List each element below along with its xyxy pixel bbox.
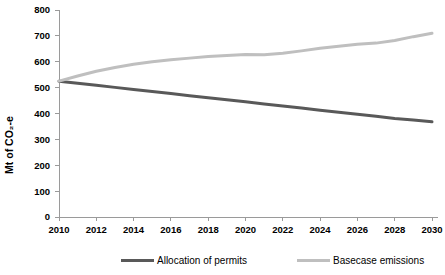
x-tick-label: 2030 bbox=[421, 224, 442, 235]
y-tick-label: 600 bbox=[34, 56, 50, 67]
x-axis-tick-marks bbox=[59, 217, 432, 221]
x-tick-label: 2026 bbox=[347, 224, 368, 235]
x-tick-label: 2016 bbox=[160, 224, 181, 235]
series-line bbox=[59, 81, 432, 122]
y-tick-label: 800 bbox=[34, 4, 50, 15]
series-line bbox=[59, 33, 432, 81]
x-tick-label: 2014 bbox=[123, 224, 145, 235]
y-tick-label: 100 bbox=[34, 186, 50, 197]
x-tick-label: 2024 bbox=[310, 224, 332, 235]
x-tick-label: 2020 bbox=[235, 224, 256, 235]
line-chart: Mt of CO₂-e 0100200300400500600700800 20… bbox=[0, 0, 445, 275]
legend-label: Allocation of permits bbox=[157, 255, 247, 266]
y-tick-label: 400 bbox=[34, 108, 50, 119]
x-tick-label: 2018 bbox=[198, 224, 219, 235]
x-tick-label: 2028 bbox=[384, 224, 405, 235]
chart-container: Mt of CO₂-e 0100200300400500600700800 20… bbox=[0, 0, 445, 275]
x-tick-label: 2022 bbox=[272, 224, 293, 235]
y-axis-tick-marks bbox=[55, 10, 59, 217]
y-tick-label: 300 bbox=[34, 134, 50, 145]
x-axis-tick-labels: 2010201220142016201820202022202420262028… bbox=[48, 224, 442, 235]
y-tick-label: 700 bbox=[34, 30, 50, 41]
y-tick-label: 0 bbox=[45, 211, 50, 222]
x-tick-label: 2012 bbox=[86, 224, 107, 235]
series-lines-group bbox=[59, 33, 432, 121]
legend-label: Basecase emissions bbox=[333, 255, 424, 266]
y-axis-tick-labels: 0100200300400500600700800 bbox=[34, 4, 50, 222]
y-tick-label: 200 bbox=[34, 160, 50, 171]
chart-legend: Allocation of permitsBasecase emissions bbox=[121, 255, 424, 266]
y-axis-title-group: Mt of CO₂-e bbox=[3, 116, 15, 174]
y-tick-label: 500 bbox=[34, 82, 50, 93]
y-axis-title: Mt of CO₂-e bbox=[3, 116, 15, 174]
x-tick-label: 2010 bbox=[48, 224, 69, 235]
